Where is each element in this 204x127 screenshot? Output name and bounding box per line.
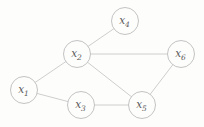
- graph-node-x4: x4: [112, 8, 139, 35]
- graph-node-x5: x5: [129, 92, 156, 119]
- graph-svg: x1x2x3x4x5x6: [0, 0, 204, 127]
- graph-node-x6: x6: [168, 41, 195, 68]
- graph-node-x2: x2: [64, 41, 91, 68]
- graph-diagram: x1x2x3x4x5x6: [0, 0, 204, 127]
- graph-node-x1: x1: [11, 77, 38, 104]
- graph-node-x3: x3: [68, 92, 95, 119]
